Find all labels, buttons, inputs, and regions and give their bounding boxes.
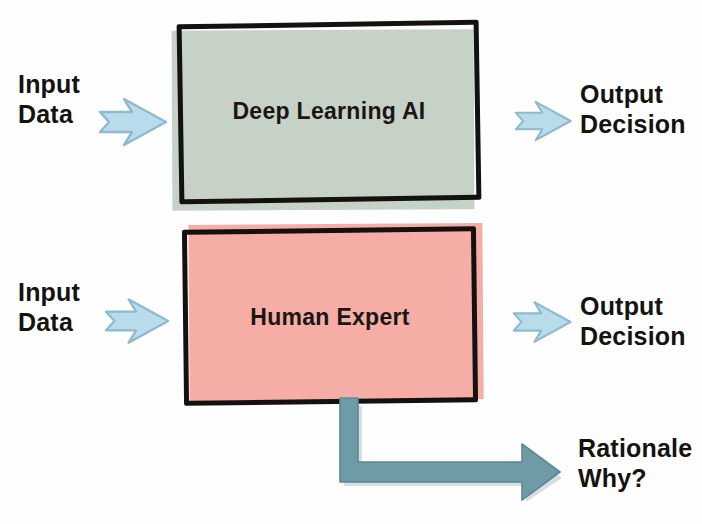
output-decision-label-human-expert: Output Decision — [580, 292, 686, 351]
input-arrow-deep-learning — [98, 96, 170, 148]
output-decision-label-deep-learning: Output Decision — [580, 80, 686, 139]
box-label-deep-learning: Deep Learning AI — [178, 98, 480, 125]
output-arrow-deep-learning — [514, 97, 574, 145]
rationale-label: Rationale Why? — [578, 434, 692, 493]
output-arrow-human-expert — [512, 298, 574, 346]
rationale-elbow-arrow — [326, 398, 576, 508]
process-box-human-expert[interactable]: Human Expert — [183, 228, 477, 404]
diagram-canvas: Input Data Deep Learning AI Output Decis… — [0, 0, 702, 524]
input-data-label-human-expert: Input Data — [18, 278, 80, 337]
box-label-human-expert: Human Expert — [183, 304, 477, 331]
input-data-label-deep-learning: Input Data — [18, 70, 80, 129]
process-box-deep-learning[interactable]: Deep Learning AI — [178, 22, 480, 202]
input-arrow-human-expert — [104, 296, 172, 346]
